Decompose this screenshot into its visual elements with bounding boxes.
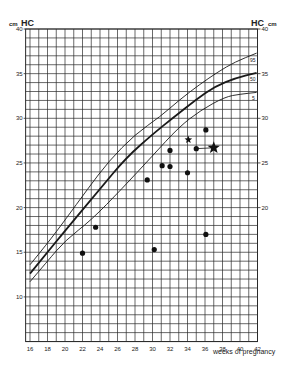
x-tick-label: 28 [132, 346, 139, 352]
curve-label-50: 50 [250, 76, 256, 82]
right-unit-label: cm [268, 21, 277, 27]
x-tick-label: 20 [62, 346, 69, 352]
y-tick-label-left: 15 [16, 249, 23, 255]
y-tick-label-left: 20 [16, 205, 23, 211]
x-tick-label: 30 [149, 346, 156, 352]
x-tick-label: 26 [114, 346, 121, 352]
y-tick-label-left: 10 [16, 294, 23, 300]
x-tick-label: 36 [202, 346, 209, 352]
y-tick-label-left: 35 [16, 71, 23, 77]
x-tick-label: 24 [97, 346, 104, 352]
data-point-dot [80, 251, 85, 256]
data-point-dot [152, 247, 157, 252]
y-tick-label-left: 25 [16, 160, 23, 166]
y-tick-label-right: 20 [262, 205, 269, 211]
data-point-dot [185, 170, 190, 175]
data-point-dot [160, 163, 165, 168]
x-tick-label: 16 [27, 346, 34, 352]
data-point-dot [167, 164, 172, 169]
x-axis-label: weeks of pregnancy [213, 349, 275, 355]
y-tick-label-right: 35 [262, 71, 269, 77]
y-tick-label-right: 25 [262, 160, 269, 166]
x-tick-label: 18 [44, 346, 51, 352]
data-point-dot [203, 127, 208, 132]
curve-label-5: 5 [252, 95, 255, 101]
x-tick-label: 22 [79, 346, 86, 352]
curve-label-95: 95 [250, 57, 256, 63]
left-unit-label: cm [9, 21, 18, 27]
chart-grid [26, 29, 258, 342]
data-point-dot [93, 225, 98, 230]
x-tick-label: 34 [184, 346, 191, 352]
data-point-dot [194, 146, 199, 151]
right-axis-title: HC [251, 19, 264, 28]
data-point-star-small [185, 136, 193, 143]
data-point-dot [203, 232, 208, 237]
left-axis-title: HC [21, 19, 34, 28]
x-tick-label: 32 [167, 346, 174, 352]
data-points [80, 127, 220, 255]
y-tick-label-right: 30 [262, 115, 269, 121]
hc-growth-chart: 1618202224262830323436384042101520253035… [0, 0, 293, 366]
y-tick-label-left: 30 [16, 115, 23, 121]
data-point-dot [145, 177, 150, 182]
data-point-dot [167, 148, 172, 153]
